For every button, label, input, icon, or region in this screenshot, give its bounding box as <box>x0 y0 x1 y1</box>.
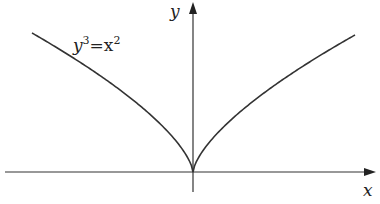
y-axis-label: y <box>169 1 180 21</box>
x-axis-arrow-icon <box>364 168 376 176</box>
plot-canvas: y x y3=x2 <box>0 0 380 204</box>
x-axis-label: x <box>363 180 373 200</box>
curve-label: y3=x2 <box>72 34 120 55</box>
curve-right-branch <box>193 35 355 172</box>
y-axis-arrow-icon <box>189 2 197 14</box>
